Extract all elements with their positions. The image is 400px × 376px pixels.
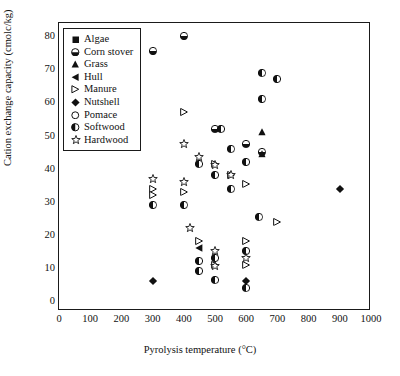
filled-diamond-icon [69,98,82,107]
scatter-chart-figure: 0100200300400500600700800900100001020304… [0,0,400,376]
legend-item-corn-stover[interactable]: Corn stover [69,46,133,59]
y-axis-tick-label: 30 [45,197,56,208]
data-point [217,125,226,134]
data-point [226,184,235,193]
data-point [195,237,204,246]
legend-item-label: Pomace [84,110,117,121]
half-filled-circle-bottom-icon [69,48,82,57]
legend-item-algae[interactable]: Algae [69,33,133,46]
y-axis-tick-label: 10 [45,263,56,274]
data-point [242,158,251,167]
data-point [258,150,267,159]
data-point [242,284,251,293]
legend-item-label: Corn stover [84,47,133,58]
x-axis-tick-label: 0 [56,314,61,325]
x-axis-tick-label: 600 [238,314,254,325]
x-axis-tick-label: 800 [301,314,317,325]
x-axis-tick-label: 900 [332,314,348,325]
x-axis-tick-label: 400 [176,314,192,325]
legend-item-label: Grass [84,59,108,70]
legend-item-label: Manure [84,84,117,95]
filled-square-icon [69,36,82,44]
data-point [194,152,204,162]
legend-item-nutshell[interactable]: Nutshell [69,96,133,109]
legend-item-manure[interactable]: Manure [69,83,133,96]
data-point [148,47,157,56]
legend-item-hardwood[interactable]: Hardwood [69,134,133,147]
data-point [195,257,204,266]
data-point [210,160,220,170]
data-point [273,217,282,226]
x-axis-tick-label: 300 [145,314,161,325]
legend-item-label: Algae [84,34,109,45]
half-filled-circle-left-icon [69,123,82,132]
legend-item-grass[interactable]: Grass [69,58,133,71]
data-point [179,139,189,149]
data-point [241,253,251,263]
x-axis-tick-label: 500 [207,314,223,325]
x-axis-tick-label: 1000 [361,314,382,325]
legend-item-label: Hardwood [84,135,128,146]
data-point [179,177,189,187]
data-point [254,212,263,221]
data-point [258,95,267,104]
data-point [185,223,195,233]
legend-item-label: Softwood [84,122,125,133]
data-point [242,237,251,246]
open-star-icon [69,135,82,145]
data-point [226,170,236,180]
data-point [148,277,157,286]
y-axis-tick-label: 60 [45,97,56,108]
y-axis-tick-label: 40 [45,163,56,174]
open-circle-icon [69,111,82,120]
data-point [335,184,344,193]
legend-item-softwood[interactable]: Softwood [69,121,133,134]
data-point [180,32,189,41]
data-point [210,246,220,256]
data-point [180,201,189,210]
y-axis-title: Cation exchange capacity (cmolc/kg) [3,9,14,166]
y-axis-tick-label: 70 [45,64,56,75]
data-point [211,171,220,180]
data-point [148,201,157,210]
filled-triangle-up-icon [69,60,82,69]
filled-triangle-left-icon [69,73,82,82]
data-point [180,188,189,197]
legend-item-pomace[interactable]: Pomace [69,109,133,122]
legend-item-label: Nutshell [84,97,120,108]
data-point [242,140,251,149]
open-triangle-right-icon [69,85,82,94]
legend-item-label: Hull [84,72,103,83]
data-point [258,68,267,77]
y-axis-tick-label: 20 [45,230,56,241]
x-axis-tick-label: 100 [82,314,98,325]
chart-legend: AlgaeCorn stoverGrassHullManureNutshellP… [63,28,141,151]
data-point [180,108,189,117]
y-axis-tick-label: 50 [45,130,56,141]
y-axis-tick-label: 0 [50,296,55,307]
data-point [242,179,251,188]
data-point [210,261,220,271]
data-point [148,191,157,200]
x-axis-tick-label: 200 [114,314,130,325]
data-point [148,174,158,184]
legend-item-hull[interactable]: Hull [69,71,133,84]
x-axis-title: Pyrolysis temperature (°C) [0,345,400,356]
data-point [273,75,282,84]
x-axis-tick-label: 700 [270,314,286,325]
data-point [195,267,204,276]
data-point [226,145,235,154]
y-axis-tick-label: 80 [45,31,56,42]
data-point [258,128,267,137]
data-point [211,275,220,284]
